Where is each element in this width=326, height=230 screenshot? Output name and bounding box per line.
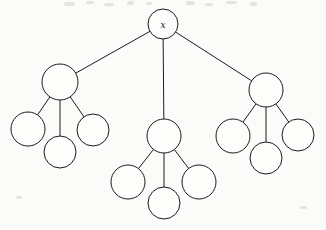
tree-node-r2[interactable] [250,142,282,174]
tree-node-root[interactable]: x [148,9,178,39]
tree-edge-r-r1 [243,104,256,122]
tree-edge-r-r3 [276,104,289,122]
tree-diagram: x [0,0,326,230]
node-layer: x [11,9,314,219]
tree-edge-m-m1 [138,149,153,168]
tree-node-m2[interactable] [148,187,180,219]
node-circle-l[interactable] [42,64,78,100]
node-circle-r1[interactable] [216,119,250,153]
node-circle-r[interactable] [249,73,283,107]
node-circle-m[interactable] [147,119,181,153]
tree-node-r1[interactable] [216,119,250,153]
tree-edge-l-l3 [70,97,84,117]
tree-node-m1[interactable] [111,165,145,199]
node-circle-m2[interactable] [148,187,180,219]
tree-edge-m-m3 [174,150,188,169]
tree-edge-l-l1 [38,97,50,115]
node-circle-l2[interactable] [44,136,76,168]
tree-node-r[interactable] [249,73,283,107]
tree-node-l3[interactable] [77,114,109,146]
node-circle-r2[interactable] [250,142,282,174]
node-circle-r3[interactable] [282,119,314,151]
tree-node-l2[interactable] [44,136,76,168]
tree-node-m3[interactable] [182,165,216,199]
tree-node-r3[interactable] [282,119,314,151]
diagram-canvas: x [0,0,326,230]
tree-node-l[interactable] [42,64,78,100]
tree-edge-root-l [76,31,150,73]
tree-node-m[interactable] [147,119,181,153]
node-circle-m1[interactable] [111,165,145,199]
tree-node-l1[interactable] [11,112,45,146]
tree-edge-root-r [176,32,252,81]
node-circle-m3[interactable] [182,165,216,199]
node-label-root: x [160,20,165,30]
node-circle-l3[interactable] [77,114,109,146]
tree-edge-root-m [163,39,164,119]
node-circle-l1[interactable] [11,112,45,146]
